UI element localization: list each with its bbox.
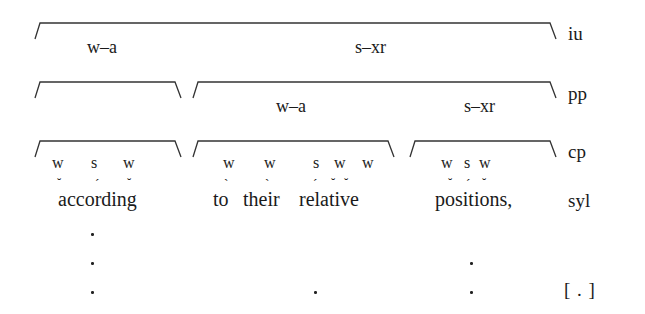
- weight-w: w: [441, 155, 453, 171]
- grid-dot: [470, 291, 473, 294]
- tier-label-grid: [ . ]: [564, 280, 596, 299]
- pp-bracket-2: [193, 82, 556, 98]
- word-relative: relative: [299, 189, 359, 209]
- weight-w: w: [223, 155, 235, 171]
- word-positions: positions,: [435, 189, 512, 209]
- weight-w: w: [479, 155, 491, 171]
- grid-dot: [314, 291, 317, 294]
- iu-constituent-s-xr: s–xr: [355, 38, 386, 56]
- grid-dot: [91, 233, 94, 236]
- tier-label-iu: iu: [568, 24, 583, 43]
- weight-s: s: [91, 155, 97, 171]
- tier-label-syl: syl: [568, 191, 590, 210]
- weight-w: w: [264, 155, 276, 171]
- tier-label-pp: pp: [568, 84, 587, 103]
- grid-dot: [91, 291, 94, 294]
- word-according: according: [58, 189, 137, 209]
- grid-dot: [470, 262, 473, 265]
- word-their: their: [243, 189, 280, 209]
- weight-w: w: [52, 155, 64, 171]
- pp-constituent-s-xr: s–xr: [464, 97, 495, 115]
- tier-label-cp: cp: [568, 142, 586, 161]
- word-to: to: [213, 189, 229, 209]
- weight-w: w: [334, 155, 346, 171]
- grid-dot: [91, 262, 94, 265]
- weight-w: w: [123, 155, 135, 171]
- weight-w: w: [362, 155, 374, 171]
- pp-constituent-w-a: w–a: [276, 97, 306, 115]
- pp-bracket-1: [35, 82, 181, 98]
- weight-s: s: [464, 155, 470, 171]
- weight-s: s: [313, 155, 319, 171]
- iu-constituent-w-a: w–a: [87, 38, 117, 56]
